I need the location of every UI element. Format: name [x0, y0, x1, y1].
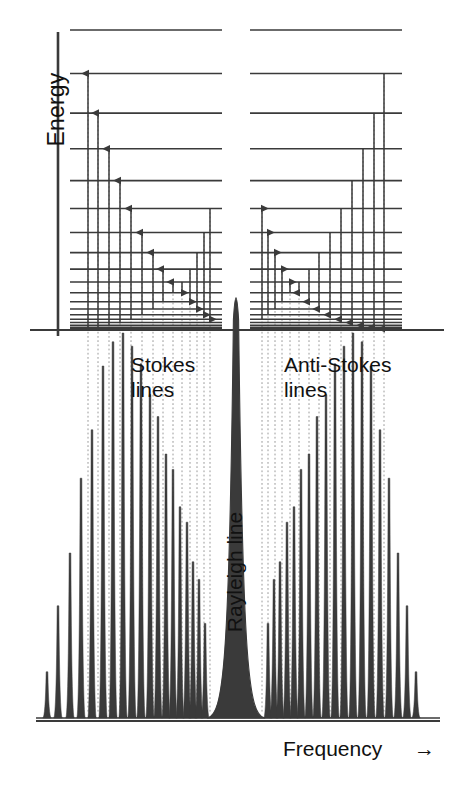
- energy-axis-label: Energy: [43, 50, 70, 170]
- frequency-axis-label: Frequency: [283, 737, 382, 761]
- stokes-lines-label: Stokes lines: [131, 352, 195, 402]
- frequency-arrow-icon: →: [414, 737, 435, 761]
- anti-stokes-lines-label: Anti-Stokes lines: [284, 352, 391, 402]
- raman-figure: [0, 0, 464, 793]
- rayleigh-line-label: Rayleigh line: [223, 487, 247, 657]
